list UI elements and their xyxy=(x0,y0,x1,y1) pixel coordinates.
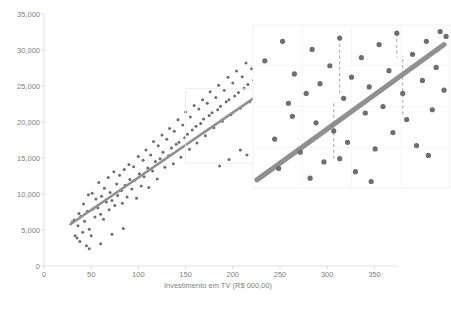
data-point xyxy=(140,185,143,188)
data-point xyxy=(82,203,85,206)
data-point xyxy=(88,228,91,231)
x-tick-label: 50 xyxy=(87,270,95,279)
inset-data-point xyxy=(404,117,409,122)
x-tick-label: 0 xyxy=(42,270,46,279)
inset-data-point xyxy=(298,150,303,155)
data-point xyxy=(152,140,155,143)
data-point xyxy=(116,194,119,197)
data-point xyxy=(168,127,171,130)
data-point xyxy=(121,202,124,205)
data-point xyxy=(204,134,207,137)
data-point xyxy=(99,213,102,216)
inset-data-point xyxy=(310,47,315,52)
data-point xyxy=(245,154,248,157)
inset-data-point xyxy=(337,35,342,40)
data-point xyxy=(88,247,91,250)
y-tick-label: 15,000 xyxy=(17,154,40,163)
data-point xyxy=(142,159,145,162)
inset-data-point xyxy=(424,39,429,44)
data-point xyxy=(110,199,113,202)
inset-data-point xyxy=(304,91,309,96)
data-point xyxy=(216,108,219,111)
data-point xyxy=(199,122,202,125)
y-tick-label: 0 xyxy=(36,262,40,271)
data-point xyxy=(211,111,214,114)
scatter-chart-figure: 05,00010,00015,00020,00025,00030,00035,0… xyxy=(0,0,451,310)
data-point xyxy=(165,138,168,141)
data-point xyxy=(237,91,240,94)
y-tick-label: 35,000 xyxy=(17,10,40,19)
inset-data-point xyxy=(434,65,439,70)
inset-data-point xyxy=(290,114,295,119)
data-point xyxy=(225,100,228,103)
data-point xyxy=(107,176,110,179)
data-point xyxy=(112,170,115,173)
data-point xyxy=(170,146,173,149)
inset-data-point xyxy=(345,140,350,145)
data-point xyxy=(90,234,93,237)
data-point xyxy=(76,224,79,227)
inset-data-point xyxy=(331,128,336,133)
data-point xyxy=(177,118,180,121)
data-point xyxy=(108,208,111,211)
data-point xyxy=(149,154,152,157)
data-point xyxy=(218,164,221,167)
data-point xyxy=(85,244,88,247)
data-point xyxy=(137,155,140,158)
data-point xyxy=(103,187,106,190)
data-point xyxy=(130,187,133,190)
data-point xyxy=(91,192,94,195)
data-point xyxy=(231,82,234,85)
inset-data-point xyxy=(262,58,267,63)
data-point xyxy=(209,90,212,93)
data-point xyxy=(219,105,222,108)
y-tick-label: 5,000 xyxy=(21,226,40,235)
inset-data-point xyxy=(272,137,277,142)
inset-data-point xyxy=(286,101,291,106)
data-point xyxy=(99,242,102,245)
data-point xyxy=(197,108,200,111)
data-point xyxy=(177,141,180,144)
inset-data-point xyxy=(430,107,435,112)
x-tick-label: 100 xyxy=(132,270,145,279)
data-point xyxy=(186,133,189,136)
inset-data-point xyxy=(349,75,354,80)
data-point xyxy=(118,174,121,177)
data-point xyxy=(127,163,130,166)
inset-data-point xyxy=(359,55,364,60)
data-point xyxy=(181,123,184,126)
x-tick-label: 250 xyxy=(274,270,287,279)
data-point xyxy=(235,69,238,72)
inset-data-point xyxy=(414,143,419,148)
inset-data-point xyxy=(280,39,285,44)
y-tick-label: 25,000 xyxy=(17,82,40,91)
data-point xyxy=(110,233,113,236)
data-point xyxy=(173,130,176,133)
data-point xyxy=(94,198,97,201)
data-point xyxy=(100,195,103,198)
inset-data-point xyxy=(390,130,395,135)
data-point xyxy=(239,149,242,152)
data-point xyxy=(233,95,236,98)
data-point xyxy=(194,125,197,128)
data-point xyxy=(202,118,205,121)
x-tick-label: 350 xyxy=(368,270,381,279)
data-point xyxy=(135,197,138,200)
data-point xyxy=(126,195,129,198)
inset-data-point xyxy=(353,169,358,174)
data-point xyxy=(179,156,182,159)
inset-data-point xyxy=(292,71,297,76)
data-point xyxy=(144,149,147,152)
inset-data-point xyxy=(321,159,326,164)
inset-data-point xyxy=(337,156,342,161)
data-point xyxy=(102,218,105,221)
data-point xyxy=(147,186,150,189)
y-tick-label: 10,000 xyxy=(17,190,40,199)
inset-data-point xyxy=(313,120,318,125)
inset-data-point xyxy=(400,91,405,96)
data-point xyxy=(193,104,196,107)
data-point xyxy=(93,216,96,219)
inset-data-point xyxy=(367,84,372,89)
data-point xyxy=(206,102,209,105)
data-point xyxy=(228,98,231,101)
